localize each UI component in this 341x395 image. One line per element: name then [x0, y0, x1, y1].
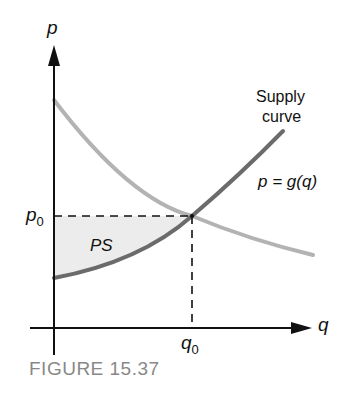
producer-surplus-chart	[0, 0, 341, 395]
supply-curve-label-line1: Supply	[256, 88, 305, 106]
q0-symbol: q	[181, 332, 192, 353]
supply-curve-label-line2: curve	[262, 108, 301, 126]
p0-tick-label: p0	[26, 204, 44, 229]
ps-region	[54, 216, 192, 278]
equilibrium-point	[190, 214, 194, 218]
x-axis-arrow-icon	[291, 322, 312, 334]
p0-subscript: 0	[37, 214, 44, 229]
x-axis-label: q	[318, 314, 329, 336]
supply-equation-label: p = g(q)	[258, 172, 317, 192]
q0-subscript: 0	[192, 342, 199, 357]
figure-caption: FIGURE 15.37	[29, 358, 160, 380]
ps-region-label: PS	[90, 236, 113, 256]
y-axis-label: p	[47, 17, 58, 39]
p0-symbol: p	[26, 204, 37, 225]
q0-tick-label: q0	[181, 332, 199, 357]
y-axis-arrow-icon	[48, 45, 60, 66]
